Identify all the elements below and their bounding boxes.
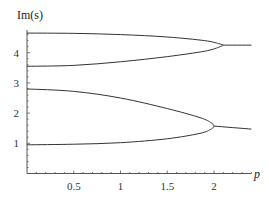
curves (27, 33, 251, 145)
x-tick-label: 1.5 (160, 180, 174, 192)
x-tick-label: 2 (211, 180, 217, 192)
axes: 0.511.521234 (14, 30, 252, 191)
curve-lower-branch-top (27, 89, 214, 126)
y-tick-label: 3 (14, 77, 20, 89)
y-tick-label: 1 (14, 137, 20, 149)
x-tick-label: 1 (118, 180, 124, 192)
x-axis-title: p (253, 167, 260, 181)
x-tick-label: 0.5 (67, 180, 81, 192)
curve-lower-merged (214, 126, 251, 129)
y-axis-title: Im(s) (17, 8, 43, 22)
curve-upper-branch-top (27, 33, 223, 45)
curve-lower-branch-bottom (27, 126, 214, 145)
curve-upper-branch-bottom (27, 45, 223, 66)
y-tick-label: 2 (14, 107, 20, 119)
bifurcation-chart: 0.511.521234 Im(s) p (0, 0, 269, 201)
y-tick-label: 4 (14, 47, 20, 59)
